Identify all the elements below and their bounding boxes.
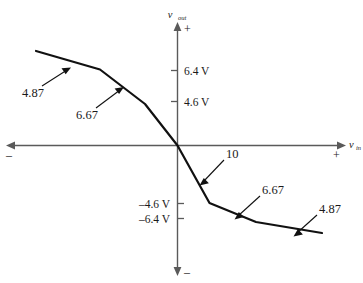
y-axis-label-sub: out — [178, 14, 187, 21]
annotation-upper-mid: 6.67 — [76, 108, 98, 122]
x-axis-plus-sign: + — [333, 148, 340, 162]
y-axis-minus-sign: – — [183, 265, 191, 279]
leader-center — [203, 160, 224, 182]
x-axis-label-var: v — [349, 139, 354, 150]
y-axis-plus-sign: + — [184, 22, 191, 36]
annotation-center: 10 — [226, 147, 239, 161]
y-axis-label-var: v — [168, 9, 173, 20]
tick-label-4-6: 4.6 V — [184, 96, 210, 108]
tick-label-6-4: 6.4 V — [184, 65, 210, 77]
tick-labels-group: 6.4 V 4.6 V –4.6 V –6.4 V — [138, 65, 210, 225]
leader-upper-outer — [42, 70, 67, 86]
chart-canvas: v out + – v in + – 6.4 V 4.6 V –4.6 V –6… — [0, 0, 363, 283]
y-axis-bottom-arrowhead — [174, 267, 182, 276]
leader-lower-mid — [238, 196, 260, 216]
x-axis-minus-sign: – — [5, 148, 13, 162]
transfer-curve — [36, 51, 322, 233]
annotation-lower-outer: 4.87 — [319, 202, 341, 216]
y-axis-top-arrowhead — [174, 22, 182, 31]
annotation-leaders-group — [42, 68, 317, 237]
axis-text-group: v out + – v in + – — [5, 9, 361, 279]
x-axis-label-sub: in — [356, 144, 361, 151]
annotation-upper-outer: 4.87 — [22, 86, 44, 100]
transfer-curve-group — [36, 51, 322, 233]
transfer-characteristic-figure: v out + – v in + – 6.4 V 4.6 V –4.6 V –6… — [0, 0, 363, 283]
tick-label-neg-4-6: –4.6 V — [138, 198, 171, 210]
annotation-lower-mid: 6.67 — [262, 183, 284, 197]
tick-label-neg-6-4: –6.4 V — [138, 213, 171, 225]
leader-center-arrowhead — [200, 178, 209, 186]
axes-group — [6, 22, 346, 276]
leader-upper-mid — [96, 90, 120, 108]
